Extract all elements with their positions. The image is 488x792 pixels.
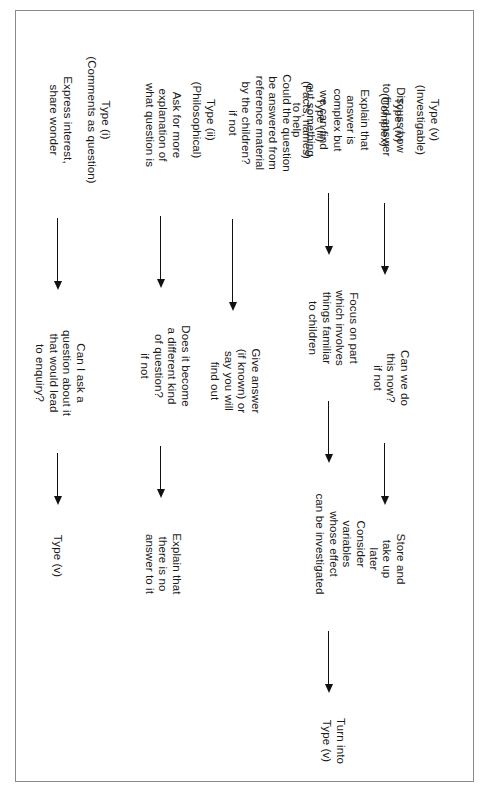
node-v-3: Store and take up later (367, 511, 408, 607)
node-v-1: Discuss how to find answer (380, 55, 407, 185)
node-iii-2: Give answer (if known) or say you will f… (208, 321, 262, 441)
node-ii-3: Explain that there is no answer to it (143, 509, 184, 619)
arrow-i-2 (53, 453, 62, 505)
arrow-iv-3 (324, 631, 333, 693)
arrow-ii-1 (156, 216, 165, 288)
arrow-i-1 (53, 218, 62, 290)
flowchart-canvas: Type (i) (Comments as question) Express … (16, 11, 474, 782)
node-i-1: Express interest, share wonder (47, 55, 74, 185)
node-ii-1: Ask for more explanation of what questio… (143, 55, 184, 195)
node-iii-1: Could the question be answered from refe… (226, 47, 294, 199)
arrow-v-1 (380, 203, 389, 275)
node-v-2: Can we do this now? if not (371, 323, 412, 433)
node-i-3: Type (v) (51, 516, 65, 596)
node-iv-3: Consider variables whose effect can be i… (313, 469, 367, 619)
arrow-v-2 (380, 443, 389, 505)
arrow-iv-2 (324, 401, 333, 463)
arrow-ii-2 (156, 446, 165, 498)
arrow-iv-1 (324, 193, 333, 255)
arrow-iii-1 (228, 219, 237, 311)
column-header-type-i: Type (i) (Comments as question) (85, 35, 112, 205)
node-ii-2: Does it become a different kind of quest… (138, 301, 192, 431)
scanned-page-frame: Type (i) (Comments as question) Express … (15, 10, 474, 782)
node-iv-2: Focus on part which involves things fami… (306, 264, 360, 392)
node-iv-4: Turn into Type (v) (320, 701, 347, 781)
node-iv-1: Explain that answer is complex but we ca… (290, 61, 371, 179)
column-header-type-v: Type (v) (Investigable) (414, 45, 441, 195)
node-i-2: Can I ask a question about it that would… (33, 305, 87, 441)
column-header-type-ii: Type (ii) (Philosophical) (190, 45, 217, 195)
